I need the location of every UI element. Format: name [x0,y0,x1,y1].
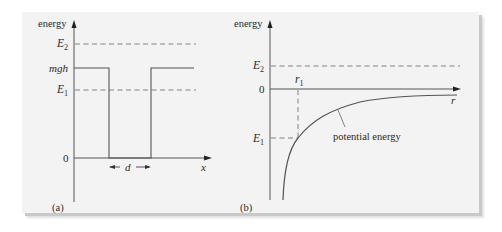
panel-a-x-arrow-icon [204,156,212,161]
panel-a-mgh-label: mgh [49,62,68,74]
panel-b-r-arrow-icon [453,87,461,92]
panel-b-tag: (b) [240,202,253,214]
panel-a-zero-label: 0 [63,152,69,164]
panel-b: energy E2 0 E1 r1 potential energy r (b) [234,18,461,214]
panel-a: energy E2 mgh E1 0 d x (a) [38,18,212,214]
panel-a-tag: (a) [52,202,64,214]
panel-a-potential-well [74,68,194,158]
panel-b-potential-curve [283,95,457,200]
panel-a-y-arrow-icon [72,20,77,28]
panel-a-d-arrowhead-left-icon [109,165,115,169]
panel-a-d-label: d [125,161,131,173]
panel-b-r-axis-label: r [451,94,456,106]
panel-b-curve-label: potential energy [333,131,401,142]
panel-b-y-arrow-icon [268,20,273,28]
panel-b-e1-label: E1 [252,132,264,147]
panel-b-y-axis-label: energy [234,18,263,29]
panel-a-e1-label: E1 [56,83,68,98]
panel-b-e2-label: E2 [252,59,264,74]
panel-b-zero-label: 0 [259,83,265,95]
panel-a-d-arrowhead-right-icon [145,165,151,169]
panel-a-e2-label: E2 [56,37,68,52]
panel-b-r1-label: r1 [295,73,303,88]
panel-a-y-axis-label: energy [38,18,67,29]
panel-b-curve-leader-line [338,110,345,127]
energy-diagrams: energy E2 mgh E1 0 d x (a) energy [0,0,502,232]
panel-a-x-axis-label: x [200,161,206,173]
